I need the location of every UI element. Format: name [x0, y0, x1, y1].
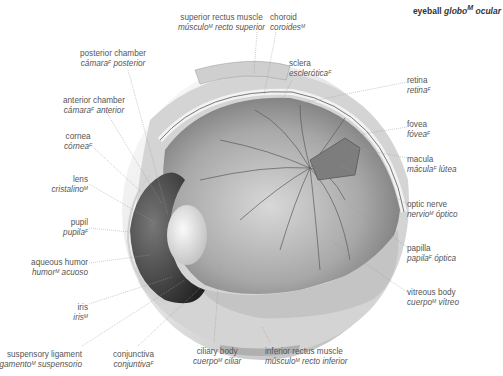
label-retina: retina retinaF — [407, 76, 431, 96]
label-vitreous-body: vitreous body cuerpoM vítreo — [407, 288, 459, 308]
label-suspensory-ligament: suspensory ligament ligamentoM suspensor… — [0, 350, 82, 370]
label-papilla: papilla papilaF óptica — [407, 244, 456, 264]
label-cornea: cornea córneaF — [64, 132, 92, 152]
label-inferior-rectus-muscle: inferior rectus muscle músculoM recto in… — [265, 347, 347, 367]
label-choroid: choroid coroidesM — [270, 13, 305, 33]
label-conjunctiva: conjunctiva conjuntivaF — [113, 350, 154, 370]
diagram-title: eyeball globoM ocular — [413, 3, 501, 16]
title-en: eyeball — [413, 6, 442, 16]
label-fovea: fovea fóveaF — [407, 120, 430, 140]
label-anterior-chamber: anterior chamber cámaraF anterior — [63, 96, 125, 116]
label-aqueous-humor: aqueous humor humorM acuoso — [31, 258, 88, 278]
label-ciliary-body: ciliary body cuerpoM ciliar — [193, 347, 241, 367]
label-superior-rectus-muscle: superior rectus muscle músculoM recto su… — [178, 13, 265, 33]
label-lens: lens cristalinoM — [52, 175, 88, 195]
label-sclera: sclera escleróticaF — [289, 59, 331, 79]
label-macula: macula máculaF lútea — [407, 155, 457, 175]
label-posterior-chamber: posterior chamber cámaraF posterior — [80, 49, 146, 69]
label-iris: iris irisM — [73, 303, 88, 323]
label-pupil: pupil pupilaF — [63, 218, 88, 238]
lens-shape — [167, 205, 207, 265]
title-es: globoM ocular — [444, 6, 501, 16]
label-optic-nerve: optic nerve nervioM óptico — [407, 200, 458, 220]
